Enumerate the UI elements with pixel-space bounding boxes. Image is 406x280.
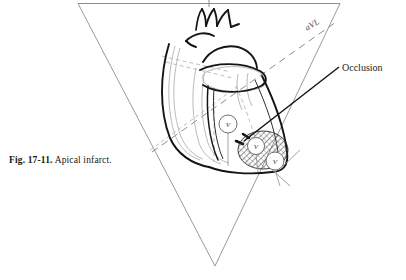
occlusion-label: Occlusion: [342, 62, 383, 73]
precordial-lead-marker-3-label: V: [273, 158, 278, 166]
occlusion-leader-line: [244, 67, 339, 141]
figure-container: V V V Occlusion aVL Fig. 17-11. Apical i…: [0, 0, 406, 280]
einthoven-triangle: [78, 0, 340, 266]
figure-number: Fig. 17-11.: [9, 155, 53, 165]
precordial-lead-marker-2: V: [248, 138, 265, 155]
precordial-lead-marker-1: V: [219, 115, 237, 133]
figure-caption: Fig. 17-11. Apical infarct.: [9, 155, 112, 165]
precordial-lead-marker-1-label: V: [226, 121, 231, 129]
figure-caption-text: Apical infarct.: [55, 155, 112, 165]
anatomical-diagram: V V V: [0, 0, 406, 280]
precordial-lead-marker-2-label: V: [254, 143, 259, 151]
precordial-lead-marker-3: V: [266, 152, 284, 170]
